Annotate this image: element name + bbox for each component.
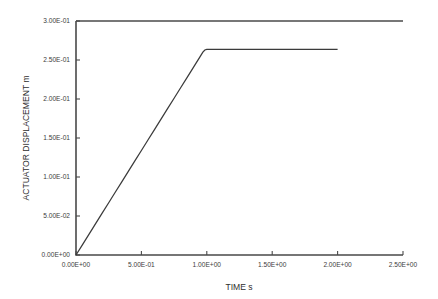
y-tick-label: 3.00E-01 bbox=[43, 17, 70, 24]
y-tick-label: 1.50E-01 bbox=[43, 134, 70, 141]
y-tick-label: 0.00E+00 bbox=[42, 251, 71, 258]
x-tick-label: 5.00E-01 bbox=[128, 261, 155, 268]
axis-frame bbox=[76, 21, 403, 255]
x-tick-label: 2.00E+00 bbox=[323, 261, 352, 268]
x-axis-ticks: 0.00E+005.00E-011.00E+001.50E+002.00E+00… bbox=[62, 251, 418, 268]
y-tick-label: 5.00E-02 bbox=[43, 212, 70, 219]
y-tick-label: 2.50E-01 bbox=[43, 56, 70, 63]
actuator-displacement-line-chart: 0.00E+005.00E-021.00E-011.50E-012.00E-01… bbox=[0, 0, 438, 299]
chart-container: 0.00E+005.00E-021.00E-011.50E-012.00E-01… bbox=[0, 0, 438, 299]
x-tick-label: 1.00E+00 bbox=[193, 261, 222, 268]
x-tick-label: 2.50E+00 bbox=[389, 261, 418, 268]
y-axis-ticks: 0.00E+005.00E-021.00E-011.50E-012.00E-01… bbox=[42, 17, 80, 258]
x-axis-title: TIME s bbox=[225, 282, 252, 292]
y-axis-title: ACTUATOR DISPLACEMENT m bbox=[21, 75, 31, 200]
x-tick-label: 1.50E+00 bbox=[258, 261, 287, 268]
y-tick-label: 1.00E-01 bbox=[43, 173, 70, 180]
data-series-actuator-displacement bbox=[76, 49, 338, 255]
x-tick-label: 0.00E+00 bbox=[62, 261, 91, 268]
y-tick-label: 2.00E-01 bbox=[43, 95, 70, 102]
